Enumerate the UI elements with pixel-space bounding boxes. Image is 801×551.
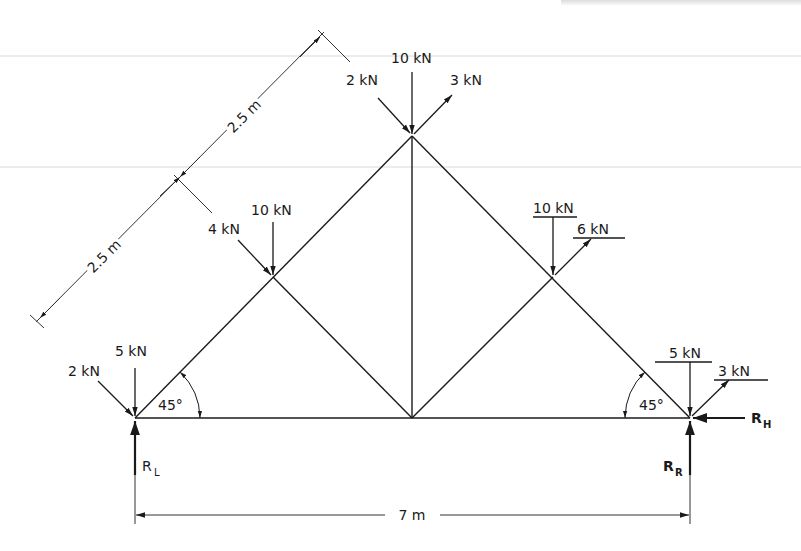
reaction-label-RR: R (663, 458, 674, 474)
load-label-left-2kN: 2 kN (68, 363, 100, 379)
ext-line-top (318, 30, 350, 62)
ext-line-mid (174, 175, 212, 213)
load-arrow-ru-6kN (555, 239, 591, 275)
right-diagonal (412, 277, 553, 418)
angle-label-right: 45° (639, 397, 664, 413)
reaction-label-RL: R (142, 458, 152, 474)
load-label-right-5kN: 5 kN (669, 345, 701, 361)
load-label-lu-10kN: 10 kN (251, 202, 292, 218)
load-arrow-lu-4kN (238, 240, 271, 275)
angle-label-left: 45° (158, 397, 183, 413)
load-label-left-5kN: 5 kN (115, 343, 147, 359)
load-label-lu-4kN: 4 kN (208, 221, 240, 237)
load-label-apex-10kN: 10 kN (391, 50, 432, 66)
ext-tick-bottom (30, 315, 44, 328)
inclined-dimension (30, 30, 350, 328)
reaction-sub-RH: H (763, 419, 771, 430)
load-arrow-right-3kN (692, 380, 729, 416)
load-label-right-3kN: 3 kN (718, 363, 750, 379)
load-label-ru-10kN: 10 kN (533, 200, 574, 216)
reaction-sub-RL: L (154, 467, 160, 478)
loads (98, 72, 768, 416)
reaction-label-RH: R (751, 410, 762, 426)
truss-members (135, 136, 690, 418)
truss-diagram: 2.5 m 2.5 m 7 m 45° 45° (0, 0, 801, 551)
load-arrow-left-2kN (98, 381, 133, 416)
reaction-sub-RR: R (675, 467, 683, 478)
load-arrow-apex-3kN (414, 95, 452, 134)
load-label-ru-6kN: 6 kN (577, 221, 609, 237)
left-diagonal (273, 277, 412, 418)
span-label: 7 m (399, 507, 426, 523)
reactions (135, 418, 745, 475)
load-arrow-apex-2kN (378, 98, 410, 133)
load-label-apex-3kN: 3 kN (450, 72, 482, 88)
load-label-apex-2kN: 2 kN (346, 72, 378, 88)
